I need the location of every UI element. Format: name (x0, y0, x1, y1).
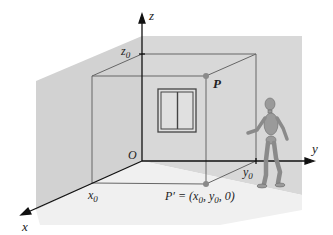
window (158, 89, 196, 132)
coordinate-diagram: z y x O z0 x0 y0 P P′ = (x0, y0, 0) (0, 0, 333, 235)
point-P (203, 73, 209, 79)
z-axis-label: z (148, 8, 154, 23)
y-arrow-icon (305, 158, 314, 164)
x-axis-label: x (21, 219, 28, 234)
origin-label: O (128, 148, 137, 162)
point-P-prime (203, 181, 209, 187)
x-arrow-icon (21, 208, 31, 215)
y-axis-label: y (310, 141, 318, 156)
P-label: P (213, 76, 222, 91)
z-arrow-icon (139, 14, 145, 23)
